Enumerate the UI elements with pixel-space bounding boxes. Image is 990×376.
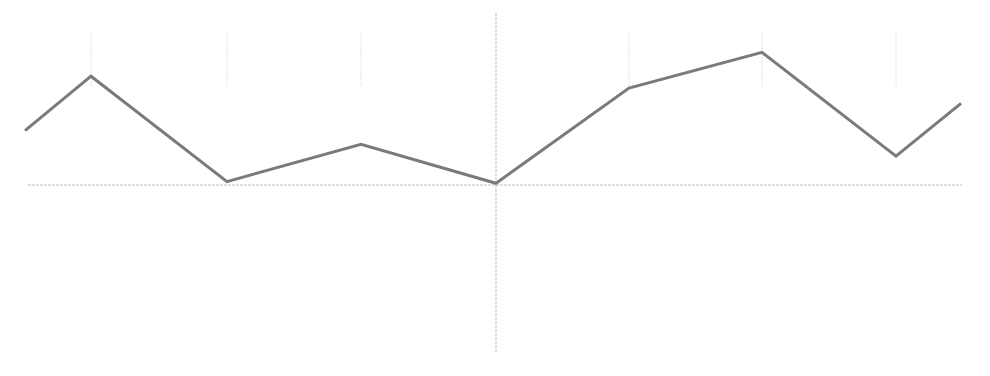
data-series-line: [25, 52, 961, 183]
line-chart: [0, 0, 990, 376]
vertical-gridlines: [91, 33, 896, 86]
